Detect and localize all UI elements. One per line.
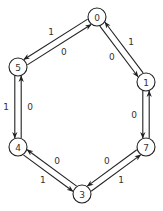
edge-3-to-7 [91, 155, 140, 191]
state-node-3: 3 [73, 185, 91, 203]
edge-label-7-to-3: 0 [104, 156, 110, 166]
node-label: 4 [15, 143, 21, 153]
edge-label-4-to-3: 1 [40, 175, 46, 185]
state-node-4: 4 [9, 138, 27, 156]
state-node-5: 5 [9, 58, 27, 76]
edge-label-5-to-4: 1 [3, 102, 9, 112]
edge-0-to-1 [100, 26, 138, 77]
node-label: 3 [79, 190, 85, 200]
state-diagram: 01010010101 017345 [0, 0, 163, 211]
node-label: 7 [143, 143, 149, 153]
edge-1-to-0 [105, 22, 143, 73]
edge-4-to-3 [23, 155, 72, 191]
edge-label-3-to-4: 0 [54, 156, 60, 166]
edge-3-to-4 [27, 150, 76, 186]
state-node-1: 1 [137, 73, 155, 91]
edge-label-1-to-7: 0 [131, 110, 137, 120]
node-label: 1 [143, 78, 149, 88]
edge-label-3-to-7: 1 [118, 175, 124, 185]
state-node-0: 0 [88, 8, 106, 26]
edge-5-to-0 [27, 25, 91, 65]
state-node-7: 7 [137, 138, 155, 156]
node-label: 0 [94, 13, 100, 23]
edge-label-4-to-5: 0 [27, 102, 33, 112]
edge-label-0-to-1: 0 [109, 52, 115, 62]
edge-label-0-to-5: 1 [48, 27, 54, 37]
edge-0-to-5 [24, 19, 88, 59]
node-label: 5 [15, 63, 21, 73]
edge-7-to-3 [87, 150, 136, 186]
edge-label-1-to-0: 1 [128, 37, 134, 47]
edge-label-5-to-0: 0 [61, 47, 67, 57]
